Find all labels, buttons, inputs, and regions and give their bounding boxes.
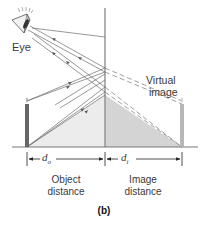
object-candle: [25, 104, 29, 147]
virtual-image-flame: [181, 97, 183, 103]
reflected-rays: [28, 26, 105, 92]
eye-icon: [12, 7, 33, 33]
object-flame: [26, 97, 28, 103]
ray-diagram: [0, 0, 207, 232]
object-distance-symbol: do: [42, 152, 51, 168]
image-distance-label-line2: distance: [124, 186, 161, 197]
image-distance-subscript: i: [127, 158, 129, 166]
panel-label: (b): [98, 205, 111, 216]
image-side-triangle: [105, 95, 182, 147]
object-distance-subscript: o: [48, 158, 52, 166]
virtual-image-label-line1: Virtual: [146, 75, 176, 86]
virtual-image-label-line2: image: [149, 87, 178, 98]
image-distance-label-line1: Image: [129, 174, 157, 185]
object-distance-label-line2: distance: [47, 186, 84, 197]
image-distance-symbol: di: [121, 152, 128, 168]
virtual-image-candle: [180, 104, 184, 147]
eye-label: Eye: [12, 42, 31, 53]
object-distance-label-line1: Object: [52, 174, 81, 185]
